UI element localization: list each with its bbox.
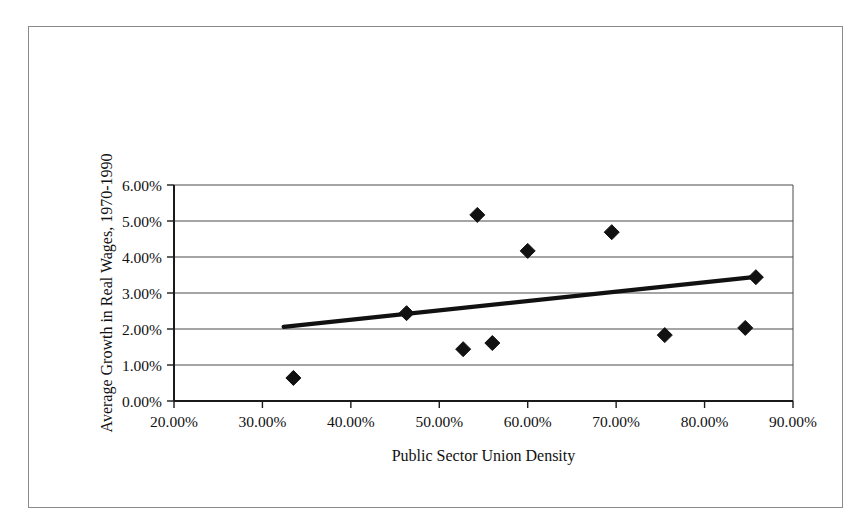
data-point-marker bbox=[738, 320, 753, 335]
y-tick-label: 1.00% bbox=[122, 357, 162, 374]
x-tick-label: 60.00% bbox=[504, 413, 552, 430]
y-tick-label: 4.00% bbox=[122, 249, 162, 266]
x-tick-label: 50.00% bbox=[415, 413, 463, 430]
data-point-marker bbox=[748, 270, 763, 285]
data-point-marker bbox=[520, 243, 535, 258]
x-tick-label: 30.00% bbox=[239, 413, 287, 430]
y-tick-label: 2.00% bbox=[122, 321, 162, 338]
data-point-marker bbox=[485, 336, 500, 351]
y-axis-title: Average Growth in Real Wages, 1970-1990 bbox=[98, 154, 116, 433]
chart-canvas: 0.00%1.00%2.00%3.00%4.00%5.00%6.00%20.00… bbox=[29, 27, 844, 509]
data-point-marker bbox=[604, 225, 619, 240]
y-tick-label: 6.00% bbox=[122, 177, 162, 194]
data-point-marker bbox=[470, 207, 485, 222]
x-axis-title: Public Sector Union Density bbox=[392, 447, 576, 465]
data-point-marker bbox=[657, 328, 672, 343]
trendline bbox=[284, 277, 756, 327]
x-tick-label: 70.00% bbox=[592, 413, 640, 430]
scatter-chart: 0.00%1.00%2.00%3.00%4.00%5.00%6.00%20.00… bbox=[29, 27, 844, 509]
data-point-marker bbox=[399, 306, 414, 321]
y-tick-label: 0.00% bbox=[122, 393, 162, 410]
x-tick-label: 80.00% bbox=[681, 413, 729, 430]
x-tick-label: 20.00% bbox=[150, 413, 198, 430]
x-tick-label: 90.00% bbox=[769, 413, 817, 430]
y-tick-label: 5.00% bbox=[122, 213, 162, 230]
y-tick-label: 3.00% bbox=[122, 285, 162, 302]
data-point-marker bbox=[286, 370, 301, 385]
figure-border: 0.00%1.00%2.00%3.00%4.00%5.00%6.00%20.00… bbox=[28, 26, 843, 508]
x-tick-label: 40.00% bbox=[327, 413, 375, 430]
data-point-marker bbox=[456, 342, 471, 357]
